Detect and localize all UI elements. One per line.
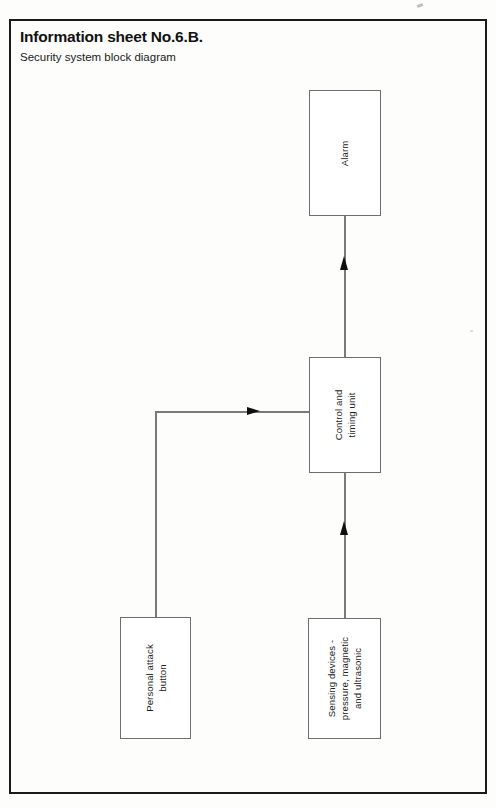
block-control-label: Control and timing unit	[332, 390, 358, 441]
page-title: Information sheet No.6.B.	[20, 28, 203, 46]
block-sensing-label: Sensing devices - pressure, magnetic and…	[325, 637, 364, 720]
arrowhead-up-icon	[340, 521, 348, 535]
connector-sensing-to-control	[344, 472, 346, 619]
connector-control-to-alarm	[344, 216, 346, 358]
block-attack-label: Personal attack button	[142, 644, 168, 712]
block-alarm: Alarm	[309, 90, 381, 216]
block-sensing-devices: Sensing devices - pressure, magnetic and…	[308, 618, 381, 739]
block-alarm-label: Alarm	[339, 140, 352, 166]
sheet-page: Information sheet No.6.B. Security syste…	[0, 0, 496, 808]
arrowhead-up-icon	[340, 256, 348, 270]
connector-attack-to-control	[155, 411, 310, 413]
arrowhead-right-icon	[247, 407, 260, 415]
connector-attack-riser	[155, 412, 157, 618]
scan-artifact-icon	[417, 3, 424, 8]
page-subtitle: Security system block diagram	[20, 51, 176, 63]
block-control-and-timing-unit: Control and timing unit	[309, 357, 381, 473]
block-personal-attack-button: Personal attack button	[120, 617, 191, 739]
